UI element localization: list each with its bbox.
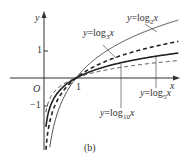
y-tick-1: 1 [37,44,42,55]
caption: (b) [84,142,96,153]
y-axis-label: y [35,12,39,23]
x-tick-1: 1 [76,81,81,92]
y-tick-neg1: −1 [30,99,41,110]
label-log5: y=log5x [140,87,171,101]
label-log10: y=log10x [100,107,134,121]
label-log2: y=log2x [127,12,158,26]
label-log3: y=log3x [83,27,114,41]
origin-label: O [33,83,40,94]
